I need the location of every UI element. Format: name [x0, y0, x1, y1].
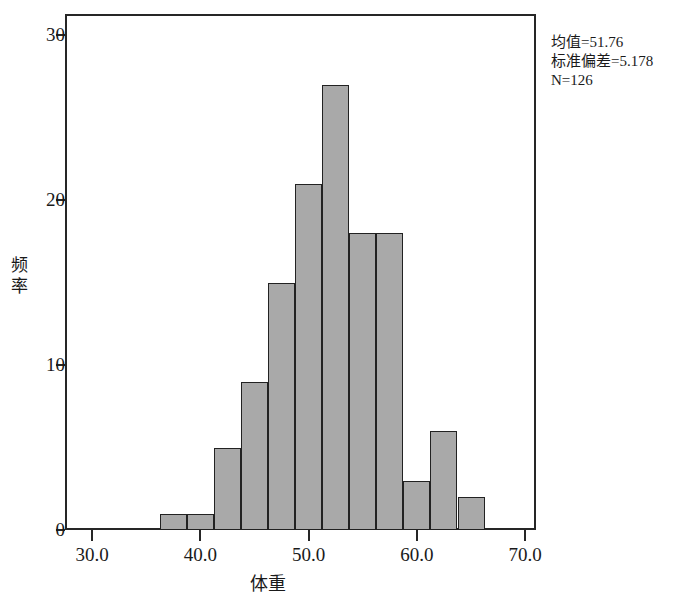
- histogram-bar: [295, 184, 322, 530]
- x-axis-tick-mark: [199, 530, 201, 541]
- x-axis-tick-label: 60.0: [382, 544, 452, 565]
- x-axis-tick-label: 50.0: [274, 544, 344, 565]
- histogram-bar: [430, 431, 457, 530]
- stat-n: N=126: [551, 71, 676, 90]
- y-axis-tick-label: 10: [31, 355, 65, 374]
- y-axis-title: 频 率: [8, 255, 30, 297]
- histogram-bar: [268, 283, 295, 530]
- x-axis-title: 体重: [0, 574, 536, 592]
- x-axis-tick-mark: [416, 530, 418, 541]
- histogram-bar: [376, 233, 403, 530]
- stats-annotation: 均值=51.76 标准偏差=5.178 N=126: [551, 33, 676, 90]
- bars-layer: [65, 14, 536, 530]
- x-axis-tick-label: 30.0: [57, 544, 127, 565]
- x-axis: 体重 30.040.050.060.070.0: [0, 530, 680, 592]
- stat-stddev: 标准偏差=5.178: [551, 52, 676, 71]
- histogram-bar: [160, 514, 187, 530]
- x-axis-tick-mark: [308, 530, 310, 541]
- histogram-bar: [403, 481, 430, 530]
- x-axis-tick-mark: [91, 530, 93, 541]
- y-axis-tick-label: 20: [31, 190, 65, 209]
- histogram-bar: [187, 514, 214, 530]
- x-axis-tick-mark: [524, 530, 526, 541]
- y-axis-tick-label: 30: [31, 25, 65, 44]
- histogram-bar: [214, 448, 241, 530]
- histogram-bar: [241, 382, 268, 530]
- y-axis-title-char-1: 频: [8, 255, 30, 276]
- histogram-bar: [458, 497, 485, 530]
- histogram-bar: [349, 233, 376, 530]
- stat-mean: 均值=51.76: [551, 33, 676, 52]
- histogram-bar: [322, 85, 349, 530]
- x-axis-tick-label: 70.0: [490, 544, 560, 565]
- x-axis-tick-label: 40.0: [165, 544, 235, 565]
- histogram-chart: 频 率 0102030 体重 30.040.050.060.070.0 均值=5…: [0, 0, 680, 592]
- y-axis: 频 率 0102030: [0, 0, 65, 592]
- y-axis-title-char-2: 率: [8, 276, 30, 297]
